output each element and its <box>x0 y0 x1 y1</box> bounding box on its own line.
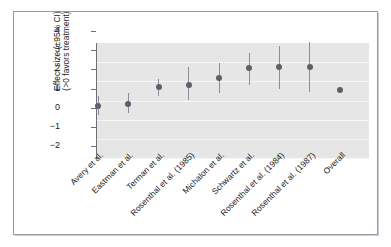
y-axis-tick <box>91 31 96 32</box>
gridline <box>97 81 369 82</box>
y-axis-tick <box>91 127 96 128</box>
gridline <box>97 101 369 102</box>
y-axis-tick-label: 0 <box>36 103 60 112</box>
plot-area <box>97 43 369 158</box>
y-axis-title: Effect size (±95% CI) (>0 favors treatme… <box>49 0 75 113</box>
gridline <box>97 120 369 121</box>
y-axis-tick <box>91 50 96 51</box>
y-axis-title-line2: (>0 favors treatment) <box>62 11 71 90</box>
figure-frame: Effect size (±95% CI) (>0 favors treatme… <box>13 11 378 235</box>
y-axis-tick-label: 3 <box>36 45 60 54</box>
y-axis-tick-label: −2 <box>36 141 60 150</box>
gridline <box>97 62 369 63</box>
forest-plot-figure: Effect size (±95% CI) (>0 favors treatme… <box>0 0 391 247</box>
y-axis-tick <box>91 89 96 90</box>
y-axis-tick-label: 4 <box>36 26 60 35</box>
gridline <box>97 158 369 159</box>
data-point-marker <box>95 103 101 109</box>
data-point-marker <box>156 84 162 90</box>
gridline <box>97 139 369 140</box>
data-point-marker <box>216 75 222 81</box>
y-axis-tick-label: −1 <box>36 122 60 131</box>
y-axis-tick <box>91 146 96 147</box>
y-axis-tick <box>91 69 96 70</box>
y-axis-tick-label: 1 <box>36 84 60 93</box>
y-axis-tick-label: 2 <box>36 64 60 73</box>
data-point-marker <box>186 82 192 88</box>
